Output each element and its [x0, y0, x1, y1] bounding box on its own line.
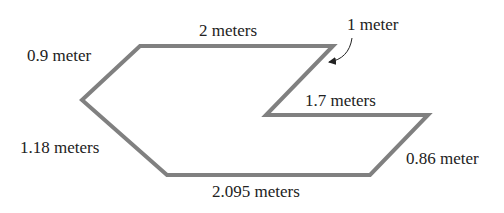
polygon-outline	[82, 46, 428, 175]
side-label-arrow: 1 meter	[347, 16, 398, 33]
side-label-inner: 1.7 meters	[305, 92, 376, 109]
side-label-lower-left: 1.18 meters	[20, 139, 99, 156]
side-label-upper-left: 0.9 meter	[27, 47, 91, 64]
side-label-right: 0.86 meter	[406, 150, 479, 167]
side-label-top: 2 meters	[199, 22, 257, 39]
pointer-arrow-icon	[329, 38, 352, 62]
side-label-bottom: 2.095 meters	[212, 183, 300, 200]
